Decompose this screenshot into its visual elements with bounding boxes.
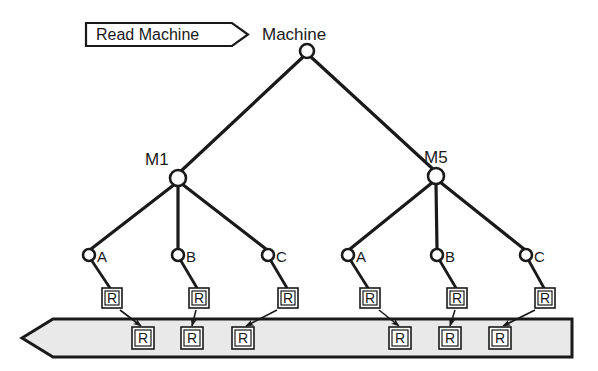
edge-leaf-a2-to-register-4 [351, 261, 368, 288]
tape-cell-2[interactable]: R [181, 327, 203, 349]
leaf-label-m5-b: B [445, 248, 455, 265]
edge-m5-to-leaf-a [350, 182, 433, 249]
tape-cell-3-label: R [238, 330, 248, 346]
mid-node-label-m5: M5 [424, 148, 448, 167]
tape-cell-6-label: R [495, 330, 505, 346]
register-box-2-label: R [194, 290, 204, 306]
edge-m1-to-leaf-a [91, 184, 175, 249]
register-box-4[interactable]: R [360, 288, 380, 308]
register-box-6-label: R [540, 290, 550, 306]
leaf-circle-m1-c[interactable] [262, 249, 274, 261]
tape-cell-1-label: R [138, 330, 148, 346]
register-box-6[interactable]: R [535, 288, 555, 308]
root-node-circle[interactable] [300, 44, 314, 58]
leaf-circle-m1-a[interactable] [83, 249, 95, 261]
edge-leaf-c-to-register-3 [271, 261, 287, 288]
leaf-label-m1-a: A [97, 248, 107, 265]
edge-leaf-b-to-register-2 [181, 261, 197, 288]
edge-leaf-a-to-register-1 [92, 261, 110, 288]
edge-leaf-c2-to-register-6 [529, 261, 544, 288]
register-box-3-label: R [283, 290, 293, 306]
read-machine-tag-label: Read Machine [96, 26, 199, 43]
mid-node-label-m1: M1 [145, 150, 169, 169]
leaf-circle-m1-b[interactable] [172, 249, 184, 261]
edge-root-to-m5 [311, 57, 434, 170]
register-box-5-label: R [452, 290, 462, 306]
leaf-circle-m5-a[interactable] [342, 249, 354, 261]
leaf-label-m1-c: C [276, 248, 287, 265]
leaf-label-m5-a: A [356, 248, 366, 265]
edge-m5-to-leaf-b [436, 184, 437, 249]
read-machine-tag[interactable]: Read Machine [86, 23, 248, 46]
tape-cell-5-label: R [445, 330, 455, 346]
tape-cell-4[interactable]: R [389, 327, 411, 349]
read-machine-diagram: Read Machine Machine M1 M5 A B C [0, 0, 598, 371]
register-box-1-label: R [107, 290, 117, 306]
tape-cell-1[interactable]: R [132, 327, 154, 349]
leaf-label-m1-b: B [186, 248, 196, 265]
edge-m1-to-leaf-c [182, 184, 266, 249]
mid-node-circle-m5[interactable] [428, 168, 444, 184]
register-box-4-label: R [365, 290, 375, 306]
register-box-3[interactable]: R [278, 288, 298, 308]
tape-cell-5[interactable]: R [439, 327, 461, 349]
register-box-5[interactable]: R [447, 288, 467, 308]
leaf-circle-m5-c[interactable] [520, 249, 532, 261]
diagram-canvas: Read Machine Machine M1 M5 A B C [0, 0, 598, 371]
edge-m5-to-leaf-c [440, 182, 524, 249]
tape-cell-2-label: R [187, 330, 197, 346]
edge-leaf-b2-to-register-5 [440, 261, 456, 288]
tape-cell-4-label: R [395, 330, 405, 346]
leaf-label-m5-c: C [534, 248, 545, 265]
leaf-circle-m5-b[interactable] [431, 249, 443, 261]
root-node-label: Machine [262, 25, 326, 44]
edge-root-to-m1 [180, 57, 303, 172]
register-box-2[interactable]: R [189, 288, 209, 308]
mid-node-circle-m1[interactable] [170, 170, 186, 186]
tape-cell-3[interactable]: R [232, 327, 254, 349]
tape-cell-6[interactable]: R [489, 327, 511, 349]
register-box-1[interactable]: R [102, 288, 122, 308]
